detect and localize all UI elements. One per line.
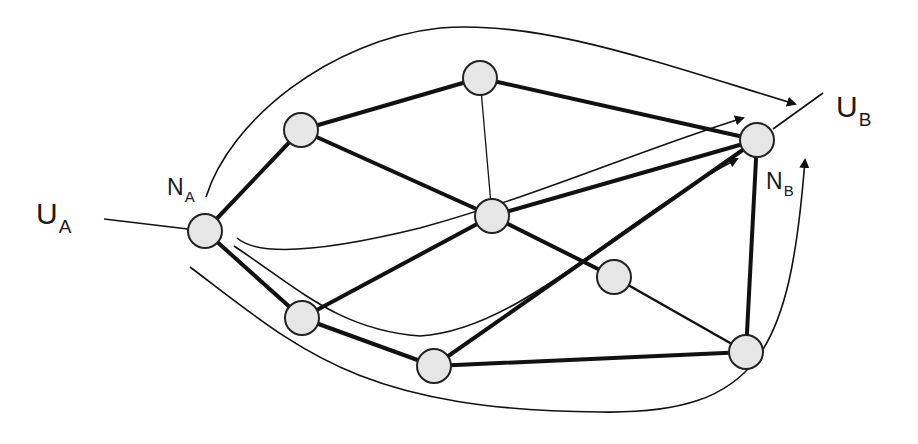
node-5	[417, 349, 451, 383]
access-link-ub	[773, 93, 823, 129]
network-edges-medium	[614, 277, 746, 352]
path-arc-top	[206, 27, 795, 197]
node-2	[463, 61, 497, 95]
thin-edge	[480, 78, 492, 216]
label-ub: UB	[836, 92, 871, 122]
network-diagram	[0, 0, 918, 444]
label-ua: UA	[36, 199, 71, 229]
path-arc-bottom	[190, 160, 805, 412]
node-nb	[740, 123, 774, 157]
node-1	[284, 113, 318, 147]
node-na	[188, 214, 222, 248]
node-4	[285, 301, 319, 335]
label-na: NA	[167, 176, 195, 199]
access-link-ua	[104, 219, 188, 229]
node-7	[729, 335, 763, 369]
node-6	[597, 260, 631, 294]
label-nb: NB	[766, 170, 794, 193]
node-3	[475, 199, 509, 233]
